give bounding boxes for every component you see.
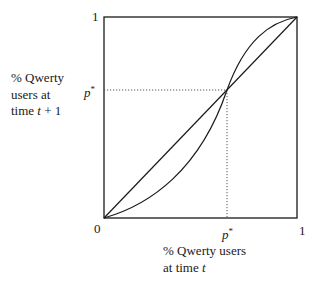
- diagonal-line: [104, 17, 297, 218]
- y-tick-pstar: p*: [84, 82, 95, 100]
- x-tick-one: 1: [299, 224, 306, 238]
- y-axis-label-line3: time t + 1: [11, 103, 64, 120]
- chart-plot: [0, 0, 317, 291]
- y-tick-one: 1: [92, 10, 99, 24]
- y-axis-label-prefix: time: [11, 103, 37, 118]
- pstar-star: *: [91, 84, 96, 94]
- x-axis-label-line2: at time t: [163, 260, 246, 277]
- x-axis-label-prefix: at time: [163, 260, 202, 275]
- x-axis-label-var: t: [202, 260, 206, 275]
- y-axis-label-line1: % Qwerty: [11, 70, 64, 87]
- y-axis-label-suffix: + 1: [41, 103, 61, 118]
- x-axis-label: % Qwerty users at time t: [163, 243, 246, 276]
- origin-tick: 0: [94, 222, 101, 236]
- x-axis-label-line1: % Qwerty users: [163, 243, 246, 260]
- x-tick-pstar: p*: [222, 224, 233, 242]
- y-axis-label-line2: users at: [11, 87, 64, 104]
- y-axis-label: % Qwerty users at time t + 1: [11, 70, 64, 120]
- pstar-star: *: [229, 226, 234, 236]
